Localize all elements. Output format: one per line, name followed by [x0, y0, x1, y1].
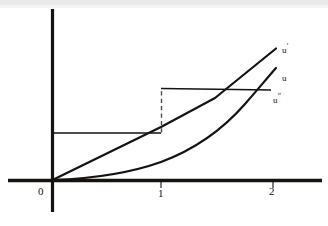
- curve-label-u-prime: u′: [282, 43, 289, 55]
- axis-tick-label-2: 2: [269, 186, 275, 197]
- curve-label-u-prime-mark: ′: [287, 42, 289, 51]
- figure-container: u′ u u″ 0 1 2: [0, 0, 328, 226]
- plot-canvas: [0, 0, 328, 226]
- axes-group: [8, 9, 322, 212]
- curve-label-u: u: [282, 71, 287, 83]
- axis-label-origin: 0: [38, 186, 44, 197]
- curve-label-u-double-prime-mark: ″: [278, 92, 282, 101]
- u-double-prime-upper-segment: [161, 89, 271, 91]
- curve-label-u-base: u: [282, 73, 287, 83]
- curve-label-u-double-prime: u″: [273, 93, 281, 105]
- axis-tick-label-1: 1: [158, 188, 164, 199]
